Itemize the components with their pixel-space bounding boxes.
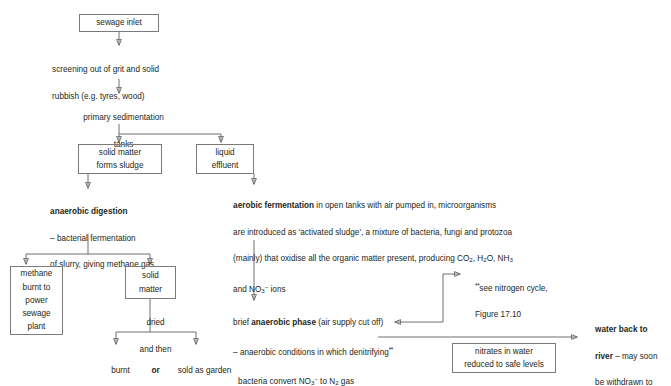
methane-line-1: methane — [11, 267, 62, 280]
aerobic-fermentation-line-3a: (mainly) that oxidise all the organic ma… — [233, 254, 469, 263]
nitrogen-cycle-line-2: Figure 17.10 — [475, 310, 521, 319]
anaerobic-phase-line-2: – anaerobic conditions in which denitrif… — [233, 347, 389, 356]
anaerobic-phase-heading: anaerobic phase — [251, 318, 316, 327]
dried-line-1: dried — [146, 318, 164, 327]
liquid-effluent-line-1: liquid — [197, 146, 253, 159]
aerobic-fermentation-line-3b: , H — [473, 254, 483, 263]
node-sewage-inlet: sewage inlet — [79, 14, 159, 32]
nitrates-line-1: nitrates in water — [453, 345, 555, 358]
anaerobic-phase-pre: brief — [233, 318, 251, 327]
methane-line-3: power — [11, 294, 62, 307]
nitrates-line-2: reduced to safe levels — [453, 358, 555, 371]
node-or: or — [142, 351, 160, 386]
solid-matter-line-2: matter — [126, 283, 175, 296]
sewage-inlet-label: sewage inlet — [80, 16, 158, 29]
aerobic-fermentation-line-4a: and NO — [233, 284, 261, 293]
solid-matter-line-1: solid — [126, 269, 175, 282]
water-back-rest-1: – may soon — [613, 352, 658, 361]
node-nitrogen-cycle-reference: **see nitrogen cycle, Figure 17.10 — [466, 266, 596, 335]
anaerobic-phase-footnote-mark: ** — [389, 346, 393, 353]
nitrogen-cycle-line-1: see nitrogen cycle, — [479, 284, 547, 293]
aerobic-fermentation-rest-1: in open tanks with air pumped in, microo… — [314, 201, 496, 210]
anaerobic-phase-rest-1: (air supply cut off) — [316, 318, 383, 327]
node-nitrates-in-water: nitrates in water reduced to safe levels — [452, 343, 556, 373]
aerobic-fermentation-heading: aerobic fermentation — [233, 201, 314, 210]
node-solid-matter: solid matter — [125, 266, 176, 299]
node-anaerobic-phase: brief anaerobic phase (air supply cut of… — [224, 303, 439, 386]
water-back-heading-1: water back to — [595, 325, 647, 334]
node-liquid-effluent: liquid effluent — [196, 144, 254, 174]
solid-matter-sludge-line-2: forms sludge — [79, 159, 161, 172]
or-label: or — [151, 366, 159, 375]
sewage-treatment-flowchart: sewage inlet screening out of grit and s… — [0, 0, 671, 386]
aerobic-fermentation-line-2: are introduced as 'activated sludge', a … — [233, 228, 512, 237]
node-solid-matter-forms-sludge: solid matter forms sludge — [78, 144, 162, 174]
node-aerobic-fermentation: aerobic fermentation in open tanks with … — [224, 186, 664, 310]
methane-line-2: burnt to — [11, 281, 62, 294]
liquid-effluent-line-2: effluent — [197, 159, 253, 172]
screening-line-1: screening out of grit and solid — [52, 65, 159, 74]
water-back-line-3: be withdrawn to — [595, 378, 652, 386]
aerobic-fermentation-line-4b: ions — [268, 284, 285, 293]
anaerobic-phase-line-3c: gas — [339, 376, 354, 385]
aerobic-nh3-subscript: 3 — [509, 256, 512, 263]
node-water-back-to-river: water back to river – may soon be withdr… — [586, 310, 671, 386]
primary-sedimentation-line-1: primary sedimentation — [83, 113, 164, 122]
methane-line-5: plant — [11, 320, 62, 333]
node-burnt: burnt — [96, 351, 136, 386]
methane-line-4: sewage — [11, 307, 62, 320]
anaerobic-digestion-heading: anaerobic digestion — [50, 207, 127, 216]
anaerobic-phase-line-3a: bacteria convert NO — [238, 376, 311, 385]
aerobic-fermentation-line-3c: O, NH — [487, 254, 510, 263]
water-back-heading-2: river — [595, 352, 613, 361]
node-methane-burnt: methane burnt to power sewage plant — [10, 266, 63, 335]
anaerobic-phase-line-3b: to N — [318, 376, 335, 385]
solid-matter-sludge-line-1: solid matter — [79, 146, 161, 159]
burnt-label: burnt — [111, 366, 130, 375]
anaerobic-digestion-line-1: – bacterial fermentation — [50, 234, 136, 243]
